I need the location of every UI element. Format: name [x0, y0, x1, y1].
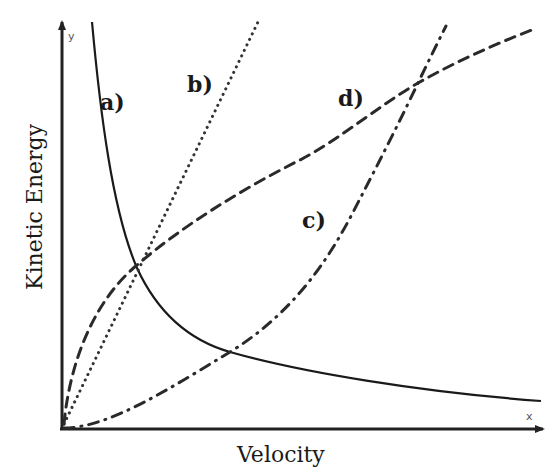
y-axis-letter: y — [68, 30, 75, 43]
x-axis-title: Velocity — [236, 442, 325, 467]
curve-c — [64, 26, 446, 428]
label-b: b) — [187, 71, 213, 97]
label-c: c) — [302, 207, 326, 233]
curve-d — [64, 28, 537, 424]
y-axis-title: Kinetic Energy — [22, 123, 47, 290]
x-axis-letter: x — [526, 410, 533, 423]
curve-b — [64, 22, 258, 424]
kinetic-energy-chart: y x Velocity Kinetic Energy a) b) c) d) — [0, 0, 556, 475]
label-d: d) — [338, 85, 364, 111]
label-a: a) — [100, 89, 125, 115]
